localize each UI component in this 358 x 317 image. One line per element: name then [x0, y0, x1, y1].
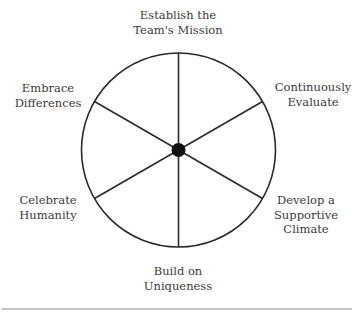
spoke-lower-left — [95, 150, 179, 199]
team-wheel-diagram: Establish the Team's Mission Continuousl… — [0, 0, 358, 317]
label-build-on-uniqueness: Build on Uniqueness — [144, 264, 212, 293]
label-continuously-evaluate: Continuously Evaluate — [275, 80, 352, 109]
spoke-upper-right — [179, 102, 263, 151]
label-establish-mission: Establish the Team's Mission — [133, 8, 222, 37]
spoke-upper-left — [95, 102, 179, 151]
label-celebrate-humanity: Celebrate Humanity — [19, 193, 76, 222]
label-develop-supportive-climate: Develop a Supportive Climate — [274, 193, 338, 237]
spoke-lower-right — [179, 150, 263, 199]
wheel-hub — [172, 143, 186, 157]
label-embrace-differences: Embrace Differences — [15, 81, 82, 110]
